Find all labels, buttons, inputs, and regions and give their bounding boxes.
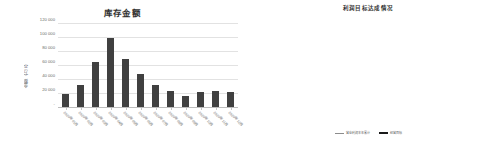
bar-cell[interactable] — [73, 23, 88, 107]
bar-2020年12月[interactable] — [227, 92, 235, 107]
bar-chart-y-tick-label: - — [54, 101, 55, 106]
bar-chart-y-axis-label: 金额（万元） — [24, 26, 30, 88]
line-chart-title: 利润目标达成情况 — [245, 4, 491, 12]
bar-2020年04月[interactable] — [107, 38, 115, 107]
legend-swatch — [335, 133, 344, 134]
bar-chart-x-tick: 2020年05月 — [118, 108, 133, 109]
bar-series — [58, 23, 238, 107]
bar-2020年05月[interactable] — [122, 59, 130, 107]
bar-chart-x-axis-labels: 2020年01月2020年02月2020年03月2020年04月2020年05月… — [58, 108, 238, 109]
bar-cell[interactable] — [163, 23, 178, 107]
line-chart-legend: 营业利润本年累计经营目标 — [245, 131, 491, 135]
bar-cell[interactable] — [118, 23, 133, 107]
inventory-bar-chart: 库存金额 金额（万元） -20 00040 00060 00080 000100… — [0, 0, 245, 155]
bar-plot-area: -20 00040 00060 00080 000100 000120 0002… — [58, 24, 238, 108]
bar-cell[interactable] — [103, 23, 118, 107]
bar-chart-y-tick-label: 80 000 — [42, 45, 55, 50]
bar-2020年07月[interactable] — [152, 85, 160, 107]
charts-canvas: 库存金额 金额（万元） -20 00040 00060 00080 000100… — [0, 0, 491, 155]
bar-cell[interactable] — [193, 23, 208, 107]
bar-chart-y-tick-label: 60 000 — [42, 59, 55, 64]
bar-cell[interactable] — [58, 23, 73, 107]
legend-label: 经营目标 — [390, 131, 402, 135]
bar-chart-x-tick: 2020年04月 — [103, 108, 118, 109]
bar-chart-y-tick-label: 40 000 — [42, 73, 55, 78]
bar-chart-y-tick-label: 100 000 — [40, 31, 55, 36]
bar-cell[interactable] — [178, 23, 193, 107]
legend-item-营业利润本年累计[interactable]: 营业利润本年累计 — [335, 131, 370, 135]
bar-chart-x-tick: 2020年01月 — [58, 108, 73, 109]
bar-cell[interactable] — [223, 23, 238, 107]
bar-chart-x-tick: 2020年12月 — [223, 108, 238, 109]
legend-item-经营目标[interactable]: 经营目标 — [379, 131, 402, 135]
bar-chart-x-tick: 2020年08月 — [163, 108, 178, 109]
bar-chart-x-tick: 2020年06月 — [133, 108, 148, 109]
bar-chart-title: 库存金额 — [0, 6, 245, 18]
bar-cell[interactable] — [148, 23, 163, 107]
bar-2020年09月[interactable] — [182, 96, 190, 107]
bar-chart-x-tick-label: 2020年12月 — [227, 110, 245, 128]
legend-label: 营业利润本年累计 — [346, 131, 370, 135]
bar-2020年08月[interactable] — [167, 91, 175, 107]
profit-target-line-chart: 利润目标达成情况 金额（元） -100 000200 000300 000400… — [245, 0, 491, 155]
bar-chart-x-tick: 2020年10月 — [193, 108, 208, 109]
bar-chart-x-tick: 2020年02月 — [73, 108, 88, 109]
bar-2020年11月[interactable] — [212, 91, 220, 107]
legend-swatch — [379, 132, 388, 134]
bar-2020年03月[interactable] — [92, 62, 100, 108]
bar-chart-x-tick: 2020年09月 — [178, 108, 193, 109]
bar-chart-x-tick: 2020年07月 — [148, 108, 163, 109]
bar-2020年02月[interactable] — [77, 85, 85, 107]
bar-cell[interactable] — [88, 23, 103, 107]
bar-chart-x-tick: 2020年11月 — [208, 108, 223, 109]
bar-2020年10月[interactable] — [197, 92, 205, 107]
bar-2020年06月[interactable] — [137, 74, 145, 107]
bar-cell[interactable] — [208, 23, 223, 107]
bar-2020年01月[interactable] — [62, 94, 70, 107]
bar-chart-y-tick-label: 20 000 — [42, 87, 55, 92]
bar-cell[interactable] — [133, 23, 148, 107]
bar-chart-y-tick-label: 120 000 — [40, 17, 55, 22]
bar-chart-x-tick: 2020年03月 — [88, 108, 103, 109]
